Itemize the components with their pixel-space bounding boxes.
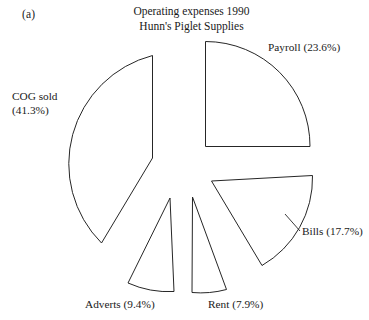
slice-label-cog-sold-line-1: COG sold — [12, 90, 58, 102]
pie-slice-bills[interactable] — [212, 176, 313, 266]
pie-slice-adverts[interactable] — [128, 198, 174, 292]
slice-label-bills-text: Bills (17.7%) — [302, 225, 363, 237]
slice-label-bills: Bills (17.7%) — [302, 224, 363, 238]
pie-slice-rent[interactable] — [192, 197, 227, 293]
slice-label-rent: Rent (7.9%) — [208, 297, 263, 311]
slice-label-adverts: Adverts (9.4%) — [85, 297, 155, 311]
slice-label-cog-sold-line-2: (41.3%) — [12, 103, 58, 117]
figure-root: (a) Operating expenses 1990 Hunn's Pigle… — [0, 0, 369, 320]
pie-slice-payroll[interactable] — [206, 42, 311, 147]
pie-slice-cog-sold[interactable] — [69, 56, 153, 244]
slice-label-adverts-text: Adverts (9.4%) — [85, 298, 155, 310]
slice-label-payroll-text: Payroll (23.6%) — [268, 41, 340, 53]
slice-label-cog-sold: COG sold (41.3%) — [12, 89, 58, 117]
slice-label-payroll: Payroll (23.6%) — [268, 40, 340, 54]
slice-label-rent-text: Rent (7.9%) — [208, 298, 263, 310]
